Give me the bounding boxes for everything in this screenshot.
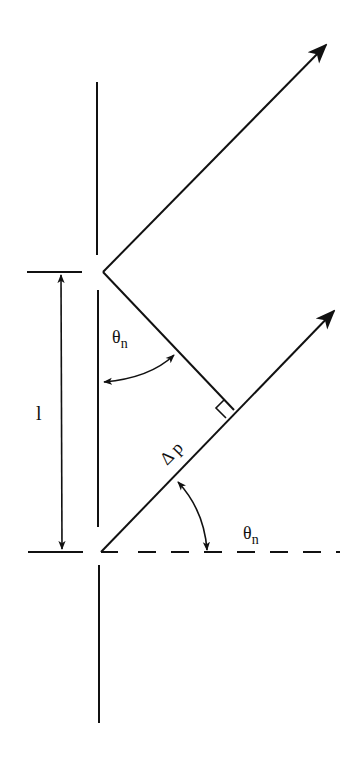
lower-ray-arrow — [101, 311, 334, 552]
upper-angle-arc — [104, 355, 174, 382]
right-angle-mark — [216, 400, 226, 418]
lower-angle-symbol: θ — [243, 523, 252, 543]
upper-angle-subscript: n — [121, 336, 128, 351]
upper-angle-symbol: θ — [112, 327, 121, 347]
lower-angle-label: θn — [243, 523, 259, 547]
lower-angle-subscript: n — [252, 532, 259, 547]
path-difference-label: Δ p — [156, 438, 187, 469]
grating-barrier — [97, 82, 99, 723]
upper-angle-label: θn — [112, 327, 128, 351]
spacing-label: l — [36, 402, 42, 424]
upper-ray-arrow — [103, 45, 326, 272]
lower-angle-arc — [178, 482, 207, 550]
dimension-double-arrow — [61, 275, 62, 549]
diffraction-diagram: l θn θn Δ p — [0, 0, 356, 763]
